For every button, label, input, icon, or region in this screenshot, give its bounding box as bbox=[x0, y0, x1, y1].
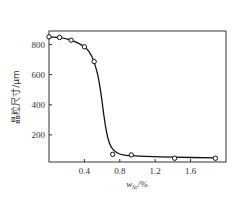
data-markers bbox=[47, 35, 218, 161]
data-point-marker bbox=[129, 153, 133, 157]
plot-area-border bbox=[49, 31, 226, 162]
y-tick-label: 800 bbox=[32, 40, 46, 50]
data-point-marker bbox=[92, 59, 96, 63]
y-tick-label: 200 bbox=[32, 130, 46, 140]
data-point-marker bbox=[172, 156, 176, 160]
chart: 200400600800 0.40.81.21.6 晶粒尺寸/μm wSc/% bbox=[0, 0, 237, 202]
y-axis-label: 晶粒尺寸/μm bbox=[10, 70, 21, 124]
y-tick-label: 400 bbox=[32, 100, 46, 110]
data-point-marker bbox=[69, 38, 73, 42]
x-tick-label: 0.8 bbox=[114, 166, 126, 176]
x-tick-label: 1.6 bbox=[185, 166, 197, 176]
data-point-marker bbox=[82, 45, 86, 49]
data-point-marker bbox=[111, 152, 115, 156]
data-point-marker bbox=[57, 35, 61, 39]
fitted-curve bbox=[49, 37, 215, 158]
y-tick-label: 600 bbox=[32, 70, 46, 80]
data-point-marker bbox=[213, 156, 217, 160]
data-point-marker bbox=[47, 35, 51, 39]
x-tick-label: 1.2 bbox=[150, 166, 161, 176]
x-tick-label: 0.4 bbox=[79, 166, 91, 176]
x-axis-label: wSc/% bbox=[126, 179, 148, 190]
plot-frame bbox=[49, 31, 226, 162]
